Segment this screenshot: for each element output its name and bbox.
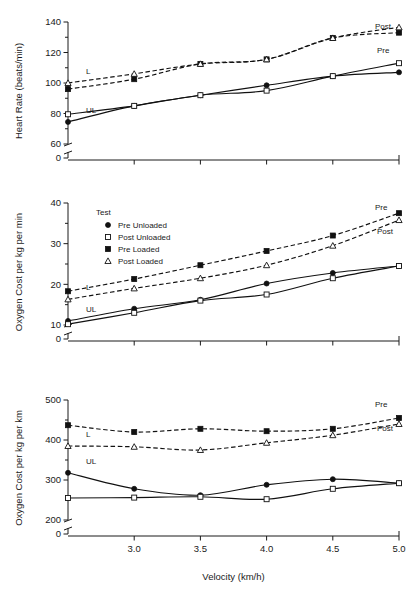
multi-panel-line-chart: 06080100120140Heart Rate (beats/min)LULP… [0, 0, 416, 594]
series-line-post-loaded [68, 424, 399, 450]
y-tick-label: 500 [45, 394, 61, 405]
legend-title: Test [96, 208, 111, 217]
series-line-pre-unloaded [68, 266, 399, 321]
legend: TestPre UnloadedPost UnloadedPre LoadedP… [96, 208, 170, 266]
y-tick-label: 0 [56, 152, 61, 163]
x-tick-label: 5.0 [392, 543, 405, 554]
y-tick-label: 80 [50, 108, 61, 119]
series-markers-post-loaded [65, 217, 402, 302]
series-markers-post-loaded [65, 421, 402, 453]
y-axis-title: Oxygen Cost per kg per min [13, 213, 24, 331]
y-tick-label: 60 [50, 138, 61, 149]
y-tick-label: 20 [50, 279, 61, 290]
legend-item-label: Pre Unloaded [118, 221, 167, 230]
series-line-post-unloaded [68, 266, 399, 324]
figure-root: 06080100120140Heart Rate (beats/min)LULP… [0, 0, 416, 594]
series-markers-pre-unloaded [66, 470, 402, 497]
y-axis-title: Oxygen Cost per kg per km [13, 410, 24, 526]
annotation-right-lower: Pre [377, 46, 390, 55]
annotation-right-upper: Post [375, 22, 392, 31]
series-markers-post-unloaded [66, 264, 402, 327]
annotation-right-upper: Pre [375, 400, 388, 409]
legend-item-label: Post Loaded [118, 257, 163, 266]
series-line-pre-unloaded [68, 72, 399, 122]
y-tick-label: 100 [45, 77, 61, 88]
series-line-pre-unloaded [68, 473, 399, 495]
chart-panel-2: 010203040Oxygen Cost per kg per minLULPr… [13, 197, 402, 345]
y-tick-label: 400 [45, 434, 61, 445]
annotation-loaded: L [86, 430, 91, 439]
x-tick-label: 4.5 [326, 543, 339, 554]
series-line-pre-loaded [68, 418, 399, 432]
y-tick-label: 300 [45, 474, 61, 485]
y-tick-label: 120 [45, 47, 61, 58]
y-tick-label: 140 [45, 16, 61, 27]
annotation-unloaded: UL [86, 305, 97, 314]
series-markers-pre-loaded [66, 30, 402, 91]
chart-panel-3: 02003004005003.03.54.04.55.0Oxygen Cost … [13, 394, 406, 554]
series-line-post-unloaded [68, 63, 399, 114]
series-markers-post-loaded [65, 24, 402, 85]
annotation-loaded: L [86, 67, 91, 76]
y-tick-label: 30 [50, 238, 61, 249]
legend-item-label: Pre Loaded [118, 245, 159, 254]
series-line-pre-loaded [68, 33, 399, 89]
x-tick-label: 3.5 [194, 543, 207, 554]
y-tick-label: 0 [56, 333, 61, 344]
y-tick-label: 200 [45, 514, 61, 525]
x-axis-title: Velocity (km/h) [202, 571, 264, 582]
annotation-right-upper: Pre [375, 203, 388, 212]
series-markers-pre-loaded [66, 416, 402, 435]
y-tick-label: 0 [56, 528, 61, 539]
y-tick-label: 40 [50, 197, 61, 208]
annotation-loaded: L [86, 283, 91, 292]
y-axis-title: Heart Rate (beats/min) [13, 43, 24, 139]
series-markers-pre-unloaded [66, 70, 402, 125]
legend-item-label: Post Unloaded [118, 233, 170, 242]
annotation-unloaded: UL [86, 457, 97, 466]
annotation-right-lower: Post [377, 227, 394, 236]
y-tick-label: 10 [50, 319, 61, 330]
annotation-unloaded: UL [86, 106, 97, 115]
annotation-right-lower: Post [377, 424, 394, 433]
x-tick-label: 3.0 [128, 543, 141, 554]
chart-panel-1: 06080100120140Heart Rate (beats/min)LULP… [13, 16, 402, 164]
x-tick-label: 4.0 [260, 543, 273, 554]
series-markers-pre-loaded [66, 211, 402, 294]
